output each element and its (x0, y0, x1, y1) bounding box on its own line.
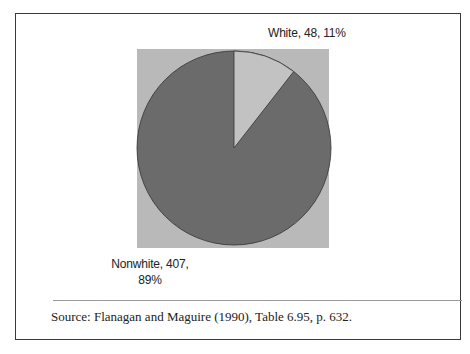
label-nonwhite-line2: 89% (110, 272, 190, 288)
label-white: White, 48, 11% (268, 26, 346, 40)
divider (53, 300, 462, 301)
label-nonwhite: Nonwhite, 407, 89% (110, 256, 190, 288)
source-note: Source: Flanagan and Maguire (1990), Tab… (51, 309, 352, 325)
label-nonwhite-line1: Nonwhite, 407, (110, 256, 190, 272)
